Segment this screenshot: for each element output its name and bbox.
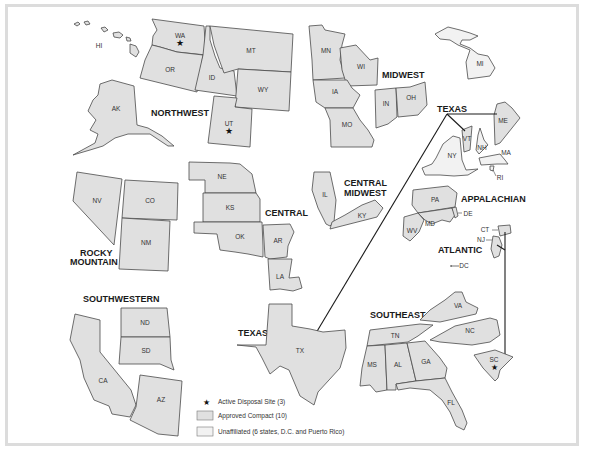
legend-item-disposal-site: ★ Active Disposal Site (3) [203, 398, 286, 407]
state-label-nv: NV [92, 197, 102, 204]
region-label-atlantic: ATLANTIC [438, 245, 483, 255]
region-label-rocky-2: MOUNTAIN [70, 257, 118, 267]
swatch-compact-icon [197, 411, 213, 420]
state-nv[interactable]: NV [73, 172, 122, 245]
state-label-ar: AR [273, 237, 282, 244]
state-nm[interactable]: NM [119, 218, 170, 271]
state-label-ca: CA [98, 377, 108, 384]
legend: ★ Active Disposal Site (3) Approved Comp… [197, 398, 344, 436]
state-label-wy: WY [258, 86, 269, 93]
legend-item-approved-compact: Approved Compact (10) [197, 411, 287, 420]
state-ne[interactable]: NE [189, 162, 256, 193]
state-label-ok: OK [235, 233, 245, 240]
state-label-fl: FL [447, 399, 455, 406]
state-la[interactable]: LA [268, 259, 302, 291]
legend-label: Approved Compact (10) [218, 412, 287, 420]
state-label-ny: NY [447, 152, 457, 159]
state-de[interactable]: DE [452, 207, 473, 218]
state-label-in: IN [383, 100, 390, 107]
state-ct[interactable]: CT [481, 225, 511, 236]
state-label-hi: HI [96, 42, 103, 49]
state-label-ct: CT [481, 226, 490, 233]
texas-compact-connector-line [447, 114, 465, 131]
state-fl[interactable]: FL [396, 378, 467, 430]
state-mn[interactable]: MN [309, 25, 345, 80]
state-in[interactable]: IN [375, 88, 397, 128]
disposal-site-star-icon: ★ [225, 126, 233, 136]
state-sc[interactable]: SC ★ [474, 350, 513, 381]
state-label-md: MD [425, 220, 435, 227]
state-ri[interactable]: RI [490, 166, 503, 181]
state-dc[interactable]: DC [450, 262, 469, 269]
region-label-central-midwest-1: CENTRAL [344, 178, 387, 188]
state-label-de: DE [463, 210, 473, 217]
region-label-midwest: MIDWEST [382, 70, 425, 80]
state-il[interactable]: IL [312, 172, 336, 226]
legend-label: Unaffiliated (6 states, D.C. and Puerto … [218, 428, 344, 436]
state-label-dc: DC [459, 262, 469, 269]
region-label-northwest: NORTHWEST [151, 108, 209, 118]
state-nd[interactable]: ND [121, 308, 170, 337]
state-label-nd: ND [140, 319, 150, 326]
legend-label: Active Disposal Site (3) [218, 398, 285, 406]
state-hi[interactable]: HI [74, 21, 139, 57]
region-label-texas-top: TEXAS [437, 104, 467, 114]
state-label-nj: NJ [477, 236, 485, 243]
state-mi[interactable]: MI [435, 27, 495, 79]
state-label-nm: NM [141, 239, 151, 246]
state-ma[interactable]: MA [479, 149, 512, 165]
state-label-ms: MS [367, 361, 377, 368]
state-ms[interactable]: MS [360, 345, 387, 392]
state-wy[interactable]: WY [235, 69, 291, 111]
state-label-ri: RI [497, 174, 504, 181]
region-label-central: CENTRAL [265, 208, 308, 218]
state-me[interactable]: ME [494, 102, 520, 145]
state-label-tx: TX [296, 347, 305, 354]
state-label-la: LA [276, 273, 285, 280]
state-label-ne: NE [217, 173, 227, 180]
region-label-southwestern: SOUTHWESTERN [83, 294, 160, 304]
state-ok[interactable]: OK [194, 222, 263, 257]
state-label-oh: OH [406, 94, 416, 101]
compact-map: HI WA ★ OR ID MT WY UT ★ AK NORTHWEST MN [0, 0, 589, 454]
state-ks[interactable]: KS [203, 193, 260, 222]
state-label-ks: KS [226, 204, 235, 211]
state-label-me: ME [498, 117, 508, 124]
state-nh[interactable]: NH [476, 128, 488, 154]
state-label-il: IL [322, 191, 328, 198]
state-sd[interactable]: SD [119, 337, 174, 370]
state-label-vt: VT [463, 135, 471, 142]
state-label-or: OR [165, 66, 175, 73]
disposal-site-star-icon: ★ [176, 38, 184, 48]
state-label-pa: PA [431, 196, 440, 203]
state-wv[interactable]: WV [403, 213, 424, 241]
state-label-nh: NH [477, 144, 487, 151]
state-mo[interactable]: MO [325, 108, 374, 147]
state-label-wi: WI [357, 63, 365, 70]
swatch-unaffiliated-icon [197, 427, 213, 436]
state-ky[interactable]: KY [330, 200, 383, 229]
state-label-al: AL [394, 361, 402, 368]
state-label-wv: WV [407, 227, 418, 234]
star-icon: ★ [203, 398, 210, 407]
state-label-mn: MN [321, 47, 331, 54]
region-label-texas-bottom: TEXAS [238, 328, 268, 338]
state-az[interactable]: AZ [130, 375, 182, 436]
state-label-mi: MI [476, 60, 483, 67]
state-mt[interactable]: MT [210, 26, 293, 73]
state-label-va: VA [454, 302, 463, 309]
legend-item-unaffiliated: Unaffiliated (6 states, D.C. and Puerto … [197, 427, 344, 436]
state-va[interactable]: VA [420, 292, 478, 322]
state-label-sc: SC [489, 356, 498, 363]
region-label-central-midwest-2: MIDWEST [344, 188, 387, 198]
state-ar[interactable]: AR [263, 224, 294, 259]
state-label-mt: MT [246, 47, 255, 54]
state-co[interactable]: CO [122, 180, 178, 220]
disposal-site-star-icon: ★ [491, 363, 498, 372]
state-label-tn: TN [391, 332, 400, 339]
state-label-ma: MA [501, 149, 511, 156]
state-tx[interactable]: TX [237, 304, 346, 405]
state-label-az: AZ [157, 396, 165, 403]
state-label-ia: IA [332, 88, 339, 95]
state-oh[interactable]: OH [396, 82, 427, 117]
